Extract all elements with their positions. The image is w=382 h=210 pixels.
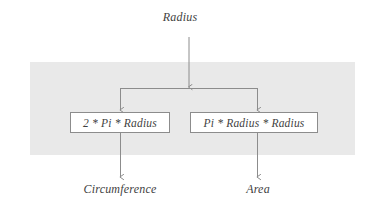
output-label-area: Area (200, 182, 316, 197)
process-box-area-formula: Pi * Radius * Radius (190, 112, 318, 133)
formula-flow-diagram: Radius 2 * Pi * Radius Pi * Radius * Rad… (0, 0, 382, 210)
connector-lines-layer (0, 0, 382, 210)
input-label-radius: Radius (120, 10, 240, 25)
process-box-circumference-formula: 2 * Pi * Radius (70, 112, 170, 133)
output-label-circumference: Circumference (60, 182, 180, 197)
